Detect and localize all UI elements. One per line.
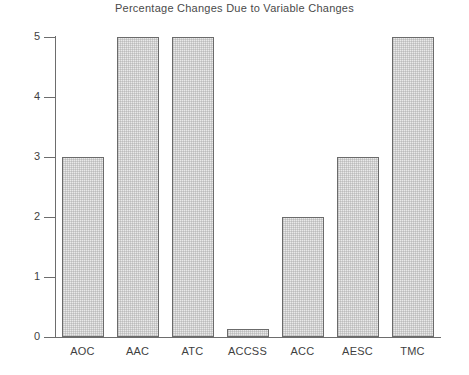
x-axis-label: ACC (275, 345, 330, 357)
y-axis-tick-label: 0 (4, 330, 40, 342)
bar (172, 37, 214, 337)
bar (282, 217, 324, 337)
bar (117, 37, 159, 337)
chart-title: Percentage Changes Due to Variable Chang… (0, 2, 469, 14)
bar (62, 157, 104, 337)
y-axis-tick-label: 2 (4, 210, 40, 222)
x-axis-label: ACCSS (220, 345, 275, 357)
x-axis-label: ATC (165, 345, 220, 357)
y-axis-tick-label: 3 (4, 150, 40, 162)
bar (227, 329, 269, 337)
x-axis-label: AESC (330, 345, 385, 357)
y-axis-tick-label: 4 (4, 90, 40, 102)
y-axis-tick-label: 5 (4, 30, 40, 42)
y-axis-tick (44, 337, 56, 338)
x-axis-label: AAC (110, 345, 165, 357)
bar (392, 37, 434, 337)
plot-area (55, 37, 440, 337)
x-axis-label: AOC (55, 345, 110, 357)
bar-chart: Percentage Changes Due to Variable Chang… (0, 0, 469, 375)
x-axis-line (55, 337, 441, 338)
bar (337, 157, 379, 337)
y-axis-tick-label: 1 (4, 270, 40, 282)
x-axis-label: TMC (385, 345, 440, 357)
